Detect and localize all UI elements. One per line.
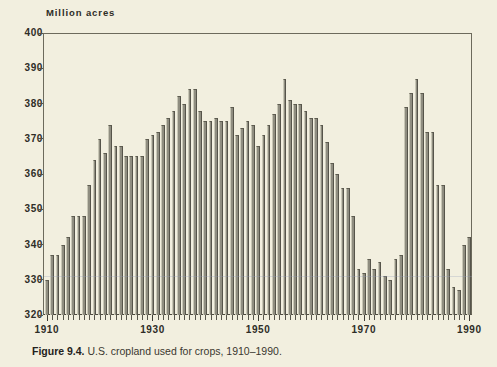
x-tick-mark-minor — [290, 315, 291, 320]
chart-bar — [140, 156, 144, 315]
y-tick-mark — [38, 103, 43, 104]
x-tick-mark-minor — [73, 315, 74, 320]
figure-container: Million acres 32033034035036037038039040… — [0, 0, 497, 367]
x-tick-mark-minor — [417, 315, 418, 320]
x-tick-mark-minor — [332, 315, 333, 320]
y-tick-mark — [38, 315, 43, 316]
chart-bar — [193, 89, 197, 315]
chart-bar — [56, 255, 60, 315]
chart-bar — [446, 269, 450, 315]
x-tick-mark-major — [152, 315, 153, 321]
x-tick-mark-minor — [369, 315, 370, 320]
chart-bar — [425, 132, 429, 315]
chart-bar — [103, 153, 107, 315]
chart-bar — [288, 100, 292, 315]
chart-bar — [404, 107, 408, 315]
chart-bar — [50, 255, 54, 315]
chart-bar — [341, 188, 345, 315]
chart-bar — [71, 216, 75, 315]
chart-bar — [304, 111, 308, 315]
x-tick-mark-minor — [285, 315, 286, 320]
chart-bar — [415, 79, 419, 315]
x-tick-mark-minor — [464, 315, 465, 320]
x-tick-mark-minor — [84, 315, 85, 320]
chart-bar — [156, 132, 160, 315]
chart-bar — [182, 104, 186, 316]
x-tick-mark-minor — [89, 315, 90, 320]
chart-bar — [151, 135, 155, 315]
x-tick-mark-minor — [200, 315, 201, 320]
chart-bar — [457, 290, 461, 315]
x-tick-mark-minor — [163, 315, 164, 320]
y-tick-mark — [38, 33, 43, 34]
chart-bar — [431, 132, 435, 315]
chart-bar — [219, 121, 223, 315]
x-tick-mark-minor — [448, 315, 449, 320]
chart-bar — [262, 135, 266, 315]
chart-bar — [209, 121, 213, 315]
chart-bar — [441, 185, 445, 315]
caption-figure-number: Figure 9.4. — [32, 345, 85, 357]
x-tick-mark-minor — [94, 315, 95, 320]
x-tick-mark-minor — [321, 315, 322, 320]
y-tick-mark — [38, 279, 43, 280]
chart-bar — [436, 185, 440, 315]
chart-bar — [330, 163, 334, 315]
x-tick-mark-minor — [327, 315, 328, 320]
chart-bar — [267, 125, 271, 315]
x-tick-mark-minor — [443, 315, 444, 320]
chart-bar — [188, 89, 192, 315]
chart-bar — [293, 104, 297, 316]
x-tick-label: 1930 — [140, 324, 165, 335]
x-tick-mark-minor — [390, 315, 391, 320]
chart-bar — [357, 269, 361, 315]
chart-bar — [77, 216, 81, 315]
x-tick-mark-minor — [126, 315, 127, 320]
x-tick-mark-minor — [205, 315, 206, 320]
y-tick-mark — [38, 174, 43, 175]
chart-bar — [235, 135, 239, 315]
chart-bar — [335, 174, 339, 315]
chart-bar — [320, 125, 324, 315]
chart-bar — [198, 111, 202, 315]
x-tick-mark-major — [469, 315, 470, 321]
x-tick-mark-minor — [131, 315, 132, 320]
x-tick-mark-minor — [279, 315, 280, 320]
chart-bar — [399, 255, 403, 315]
x-tick-mark-minor — [184, 315, 185, 320]
chart-bar — [129, 156, 133, 315]
x-tick-mark-minor — [110, 315, 111, 320]
chart-bar — [256, 146, 260, 315]
chart-bar — [272, 114, 276, 315]
x-tick-mark-minor — [137, 315, 138, 320]
x-tick-mark-minor — [237, 315, 238, 320]
chart-bar — [166, 118, 170, 315]
chart-bar — [362, 273, 366, 315]
chart-bar — [298, 104, 302, 316]
chart-bar — [277, 104, 281, 316]
x-tick-mark-minor — [57, 315, 58, 320]
y-tick-mark — [38, 244, 43, 245]
x-tick-mark-minor — [158, 315, 159, 320]
x-tick-mark-minor — [211, 315, 212, 320]
x-tick-mark-minor — [226, 315, 227, 320]
chart-bar — [346, 188, 350, 315]
chart-bar — [172, 111, 176, 315]
chart-bar — [45, 280, 49, 315]
x-tick-mark-minor — [454, 315, 455, 320]
x-tick-mark-minor — [401, 315, 402, 320]
figure-caption: Figure 9.4. U.S. cropland used for crops… — [32, 345, 282, 357]
x-tick-mark-minor — [68, 315, 69, 320]
chart-bar — [452, 287, 456, 315]
x-tick-mark-minor — [374, 315, 375, 320]
x-tick-mark-minor — [343, 315, 344, 320]
x-tick-mark-minor — [263, 315, 264, 320]
x-tick-mark-minor — [411, 315, 412, 320]
chart-bar — [388, 280, 392, 315]
x-tick-mark-minor — [100, 315, 101, 320]
chart-bar — [177, 96, 181, 315]
x-tick-mark-minor — [300, 315, 301, 320]
chart-bar — [462, 245, 466, 316]
x-tick-mark-minor — [116, 315, 117, 320]
x-tick-mark-minor — [63, 315, 64, 320]
